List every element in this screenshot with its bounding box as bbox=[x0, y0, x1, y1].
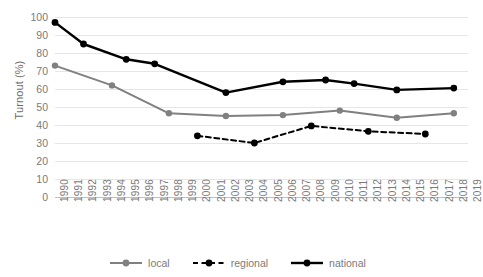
legend-item-local[interactable]: local bbox=[109, 257, 170, 269]
x-axis-tick-label: 2004 bbox=[258, 179, 269, 202]
legend-item-regional[interactable]: regional bbox=[192, 257, 268, 269]
x-axis-tick-label: 2016 bbox=[429, 179, 440, 202]
legend-marker-local bbox=[109, 257, 143, 269]
x-axis-tick-label: 2017 bbox=[444, 179, 455, 202]
x-axis-tick-label: 2011 bbox=[358, 180, 369, 202]
x-axis-tick-label: 2008 bbox=[315, 179, 326, 202]
x-axis-tick-label: 1990 bbox=[59, 179, 70, 202]
chart-legend: localregionalnational bbox=[0, 253, 475, 273]
x-axis-tick-label: 1993 bbox=[102, 179, 113, 202]
x-axis-tick-label: 2000 bbox=[201, 179, 212, 202]
legend-label-national: national bbox=[329, 257, 366, 269]
x-axis-tick-label: 1991 bbox=[73, 179, 84, 202]
x-axis-tick-label: 1996 bbox=[144, 179, 155, 202]
legend-marker-regional bbox=[192, 257, 226, 269]
x-axis-tick-label: 2014 bbox=[401, 179, 412, 202]
legend-item-national[interactable]: national bbox=[290, 257, 366, 269]
x-axis-tick-label: 1994 bbox=[116, 179, 127, 202]
x-axis-tick-label: 2012 bbox=[372, 179, 383, 202]
x-axis-tick-label: 2007 bbox=[301, 179, 312, 202]
x-axis-tick-label: 2013 bbox=[387, 179, 398, 202]
x-axis-tick-label: 2015 bbox=[415, 179, 426, 202]
x-axis-tick-label: 1999 bbox=[187, 179, 198, 202]
legend-label-local: local bbox=[148, 257, 170, 269]
x-axis-tick-label: 2002 bbox=[230, 179, 241, 202]
x-axis-tick-label: 2010 bbox=[344, 179, 355, 202]
x-axis-tick-label: 1992 bbox=[87, 179, 98, 202]
x-axis-tick-label: 1998 bbox=[173, 179, 184, 202]
x-axis-tick-label: 2018 bbox=[458, 179, 469, 202]
legend-label-regional: regional bbox=[231, 257, 268, 269]
x-axis-tick-label: 1995 bbox=[130, 179, 141, 202]
x-axis-tick-label: 2009 bbox=[330, 179, 341, 202]
x-axis-tick-label: 2006 bbox=[287, 179, 298, 202]
x-axis-tick-label: 2005 bbox=[273, 179, 284, 202]
x-axis-tick-label: 2001 bbox=[216, 179, 227, 202]
x-axis-tick-label: 1997 bbox=[159, 179, 170, 202]
legend-marker-national bbox=[290, 257, 324, 269]
x-axis-tick-label: 2019 bbox=[472, 179, 483, 202]
x-axis-tick-label: 2003 bbox=[244, 179, 255, 202]
